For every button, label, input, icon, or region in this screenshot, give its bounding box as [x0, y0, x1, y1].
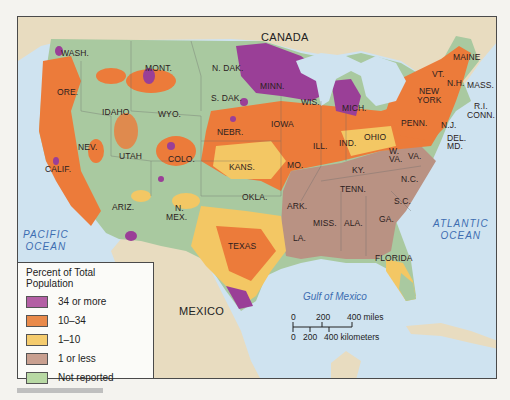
- state-label: ALA.: [344, 219, 363, 228]
- state-label: LA.: [293, 234, 306, 243]
- legend-item-1-or-less: 1 or less: [26, 349, 145, 368]
- legend-swatch: [26, 353, 48, 365]
- state-label: FLORIDA: [375, 254, 413, 263]
- state-label: KY.: [352, 166, 365, 175]
- legend-label: Not reported: [58, 372, 114, 383]
- caption-placeholder-bar: [17, 388, 103, 393]
- state-label: N.J.: [441, 121, 457, 130]
- state-label: VA.: [408, 152, 421, 161]
- state-label: PENN.: [401, 119, 427, 128]
- label-gulf-of-mexico: Gulf of Mexico: [303, 291, 367, 303]
- state-label: S.C.: [394, 197, 411, 206]
- state-label: MICH.: [342, 104, 367, 113]
- state-label: UTAH: [119, 152, 142, 161]
- kansas-yellow: [213, 141, 286, 179]
- state-label: WIS.: [301, 98, 320, 107]
- legend: Percent of Total Population 34 or more 1…: [17, 262, 154, 379]
- legend-item-34-or-more: 34 or more: [26, 292, 145, 311]
- state-label: MEX.: [166, 213, 187, 222]
- state-label: YORK: [417, 96, 442, 105]
- state-label: N.C.: [401, 175, 418, 184]
- state-label: OHIO: [364, 133, 386, 142]
- state-label: KANS.: [229, 163, 255, 172]
- state-label: N. DAK.: [212, 64, 243, 73]
- state-label: NEV.: [78, 143, 97, 152]
- state-label: VA.: [389, 155, 402, 164]
- legend-label: 1 or less: [58, 353, 96, 364]
- label-atlantic-ocean: ATLANTIC OCEAN: [433, 218, 489, 242]
- scale-km-200: 200: [303, 332, 317, 342]
- state-label: TENN.: [340, 185, 366, 194]
- legend-label: 1–10: [58, 334, 80, 345]
- state-label: IDAHO: [102, 108, 129, 117]
- state-label: ARK.: [287, 202, 307, 211]
- legend-swatch: [26, 315, 48, 327]
- legend-swatch: [26, 296, 48, 308]
- state-label: WASH.: [61, 49, 89, 58]
- legend-swatch: [26, 372, 48, 384]
- state-label: MO.: [287, 161, 303, 170]
- legend-item-1-10: 1–10: [26, 330, 145, 349]
- legend-swatch: [26, 334, 48, 346]
- scale-km-0: 0: [291, 332, 296, 342]
- state-label: ORE.: [57, 88, 78, 97]
- state-label: MD.: [447, 142, 463, 151]
- state-label: ARIZ.: [112, 203, 134, 212]
- scale-bar: 0 200 400 miles 0 200 400 kilometers: [291, 312, 421, 346]
- state-label: MINN.: [260, 82, 285, 91]
- legend-item-not-reported: Not reported: [26, 368, 145, 387]
- state-label: MISS.: [313, 219, 337, 228]
- state-label: MAINE: [453, 53, 480, 62]
- state-label: COLO.: [168, 155, 195, 164]
- state-label: GA.: [379, 215, 394, 224]
- legend-label: 34 or more: [58, 296, 106, 307]
- state-label: IOWA: [271, 120, 294, 129]
- state-label: OKLA.: [242, 193, 268, 202]
- state-label: CALIF.: [45, 165, 71, 174]
- legend-title: Percent of Total Population: [26, 267, 145, 289]
- legend-label: 10–34: [58, 315, 86, 326]
- state-label: VT.: [432, 70, 445, 79]
- state-label: CONN.: [467, 111, 495, 120]
- state-label: N.H.: [447, 79, 464, 88]
- label-canada: CANADA: [261, 31, 309, 43]
- state-label: MONT.: [145, 64, 172, 73]
- scale-km-400: 400 kilometers: [324, 332, 379, 342]
- state-label: ILL.: [313, 142, 328, 151]
- state-label: WYO.: [158, 110, 181, 119]
- label-pacific-ocean: PACIFIC OCEAN: [23, 229, 69, 253]
- label-mexico: MEXICO: [179, 305, 224, 317]
- state-label: IND.: [339, 139, 356, 148]
- state-label: MASS.: [467, 81, 494, 90]
- state-label: TEXAS: [228, 242, 256, 251]
- state-label: S. DAK.: [211, 94, 242, 103]
- state-label: NEBR.: [217, 128, 243, 137]
- legend-item-10-34: 10–34: [26, 311, 145, 330]
